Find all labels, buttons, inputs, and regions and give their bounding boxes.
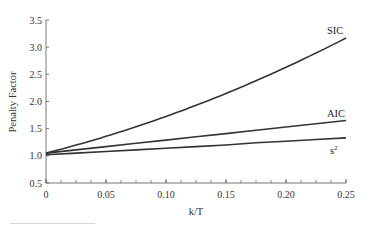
x-tick-label: 0.20 — [277, 189, 295, 200]
y-axis-title: Penalty Factor — [7, 71, 18, 132]
x-tick-label: 0.25 — [337, 189, 355, 200]
y-tick-label: 0.5 — [30, 178, 43, 189]
y-tick-label: 2.5 — [30, 69, 43, 80]
y-tick-label: 1.0 — [30, 150, 43, 161]
y-tick-label: 1.5 — [30, 123, 43, 134]
series-lines — [46, 38, 346, 155]
x-tick-label: 0.05 — [97, 189, 115, 200]
x-axis-title: k/T — [189, 206, 204, 217]
series-label-aic: AIC — [327, 108, 345, 119]
x-tick-label: 0.15 — [217, 189, 235, 200]
x-tick-label: 0.10 — [157, 189, 175, 200]
line-aic — [46, 121, 346, 154]
y-tick-label: 3.5 — [30, 15, 43, 26]
y-tick-label: 3.0 — [30, 42, 43, 53]
x-tick-label: 0 — [44, 189, 49, 200]
divider — [10, 223, 95, 224]
series-label-s2: s2 — [330, 144, 338, 156]
line-sic — [46, 38, 346, 153]
y-tick-label: 2.0 — [30, 96, 43, 107]
chart: 0.51.01.52.02.53.03.500.050.100.150.200.… — [0, 0, 367, 226]
series-label-sic: SIC — [327, 25, 343, 36]
